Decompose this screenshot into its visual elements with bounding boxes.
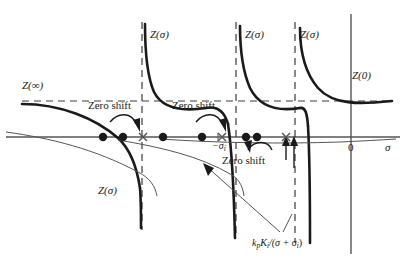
z-zero-label: Z(0) [352,70,371,81]
zero-shift-arrow-1-head [133,118,140,132]
sigma-axis-label: σ [385,142,390,153]
z-sigma-branch-upper-left [22,104,140,188]
zero-shift-label-1: Zero shift [88,100,131,111]
zero-shift-arrow-3-curve [248,143,272,151]
formula-tail: /(σ + σ [269,237,297,248]
z-sigma-label-1: Z(σ) [150,29,169,40]
pole-marker [99,133,107,141]
z-sigma-branch-3-mid [300,108,308,126]
zero-shift-arrow-2-curve [196,115,222,124]
formula-close: ) [299,237,302,248]
z-sigma-branch-2-lower [228,124,235,238]
formula-pointer-line-2 [283,214,292,232]
sigma-i-subscript: i [224,144,226,153]
pole-marker [159,133,167,141]
zero-shift-arrow-1-curve [110,115,136,124]
formula-ki: K [260,237,267,248]
sigma-i-label: −σi [212,141,226,153]
z-sigma-label-3: Z(σ) [300,29,319,40]
formula-label: kpKi/(σ + σi) [252,238,302,250]
pole-marker [253,133,261,141]
z-sigma-branch-lower-left [140,188,141,228]
formula-pointer-line [206,166,280,232]
z-sigma-branch-3-lower [308,126,310,243]
pole-marker [242,133,250,141]
zero-shift-label-3: Zero shift [222,155,265,166]
zero-shift-arrow-2-head [219,118,226,132]
plot-svg [0,0,406,267]
zero-shift-arrow-3-head [244,140,252,153]
z-infinity-label: Z(∞) [22,80,43,91]
figure-canvas: Z(∞) Z(σ) Z(σ) Z(σ) Z(0) Z(σ) Zero shift… [0,0,406,267]
pole-marker [119,133,127,141]
pole-marker [198,133,206,141]
origin-label: 0 [348,142,354,153]
z-sigma-label-2: Z(σ) [245,29,264,40]
thin-hyperbola-3 [160,139,396,143]
zero-shift-label-2: Zero shift [172,100,215,111]
z-sigma-label-lower: Z(σ) [98,185,117,196]
